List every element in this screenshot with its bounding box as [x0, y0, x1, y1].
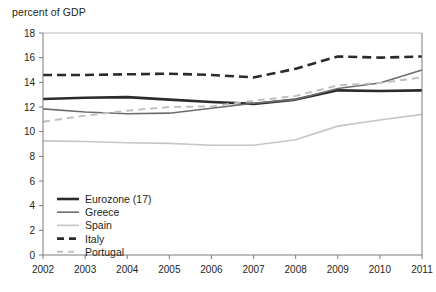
x-tick-label: 2011: [411, 264, 433, 275]
y-tick-label: 2: [29, 225, 35, 236]
x-tick-label: 2010: [369, 264, 392, 275]
x-tick-label: 2008: [285, 264, 308, 275]
legend-label: Greece: [85, 206, 120, 218]
series-line-eurozone-17: [43, 90, 422, 104]
x-tick-label: 2003: [74, 264, 97, 275]
y-tick-label: 14: [24, 77, 36, 88]
x-tick-label: 2004: [116, 264, 139, 275]
y-tick-label: 0: [29, 250, 35, 261]
y-tick-label: 10: [24, 126, 36, 137]
y-tick-label: 16: [24, 52, 36, 63]
legend-label: Spain: [85, 219, 112, 231]
y-tick-label: 18: [24, 28, 36, 39]
legend-label: Portugal: [85, 246, 124, 258]
x-tick-label: 2007: [242, 264, 265, 275]
x-axis-ticks: 2002200320042005200620072008200920102011: [32, 255, 433, 275]
x-tick-label: 2005: [158, 264, 181, 275]
y-tick-label: 12: [24, 102, 36, 113]
series-line-spain: [43, 114, 422, 145]
y-tick-label: 6: [29, 176, 35, 187]
legend-label: Italy: [85, 233, 105, 245]
x-tick-label: 2009: [327, 264, 350, 275]
x-tick-label: 2006: [200, 264, 223, 275]
y-tick-label: 8: [29, 151, 35, 162]
x-tick-label: 2002: [32, 264, 55, 275]
series-line-italy: [43, 56, 422, 77]
chart-legend: Eurozone (17)GreeceSpainItalyPortugal: [57, 193, 152, 258]
line-chart-plot: 024681012141618 200220032004200520062007…: [0, 0, 436, 292]
y-axis-ticks: 024681012141618: [24, 28, 43, 261]
legend-label: Eurozone (17): [85, 193, 152, 205]
y-tick-label: 4: [29, 200, 35, 211]
series-layer: [43, 56, 422, 145]
chart-container: percent of GDP 024681012141618 200220032…: [0, 0, 436, 292]
series-line-portugal: [43, 77, 422, 121]
